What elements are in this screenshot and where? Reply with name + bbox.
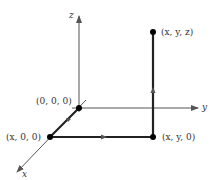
point-origin bbox=[76, 105, 82, 111]
point-label-xyz: (x, y, z) bbox=[161, 28, 193, 37]
path-arrow-icon-2 bbox=[101, 135, 107, 140]
point-x00 bbox=[47, 134, 53, 140]
path-origin-to-x00 bbox=[50, 108, 79, 137]
x-axis-label: x bbox=[22, 170, 27, 179]
point-label-xy0: (x, y, 0) bbox=[162, 133, 195, 142]
point-label-origin: (0, 0, 0) bbox=[36, 97, 72, 106]
point-label-x00: (x, 0, 0) bbox=[6, 133, 41, 142]
3d-coordinate-diagram: z y x (0, 0, 0) (x, 0, 0) (x, y, 0) (x, … bbox=[0, 0, 218, 180]
y-axis-label: y bbox=[202, 103, 207, 112]
z-axis-label: z bbox=[69, 11, 74, 20]
path-arrow-icon-3 bbox=[151, 87, 156, 93]
point-xyz bbox=[150, 29, 156, 35]
point-xy0 bbox=[150, 134, 156, 140]
